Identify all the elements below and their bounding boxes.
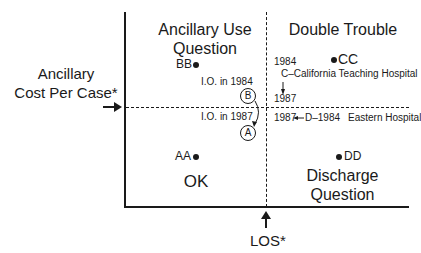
point-cc: CC [331,51,358,67]
point-bb: BB [176,57,199,71]
quadrant-title-ok: OK [176,172,216,191]
point-cc-dot-icon [331,57,337,63]
point-aa-dot-icon [193,154,199,160]
x-axis-label: LOS* [250,232,284,249]
quadrant-title-double-trouble: Double Trouble [283,20,403,39]
point-bb-dot-icon [193,62,199,68]
point-aa: AA [175,149,199,163]
circle-label-a: A [240,125,256,141]
point-dd: DD [336,149,361,163]
annotation-c-1984: 1984 [274,56,296,67]
y-axis-arrow-icon [103,102,122,112]
annotation-d-1984: D–1984 [305,112,340,123]
annotation-io-1984: I.O. in 1984 [201,76,253,87]
annotation-d-1987: 1987 [274,112,296,123]
annotation-c-1987: 1987 [274,93,296,104]
annotation-io-1987: I.O. in 1987 [201,111,253,122]
annotation-c-california-teaching-hospital: C–California Teaching Hospital [281,68,418,79]
point-dd-dot-icon [336,154,342,160]
circle-label-b: B [240,88,256,104]
quadrant-title-discharge-question: Discharge Question [300,166,385,204]
x-axis-arrow-icon [261,211,271,228]
annotation-d-eastern-hospital: Eastern Hospital [348,112,421,123]
quadrant-title-ancillary-use-question: Ancillary Use Question [150,20,260,58]
